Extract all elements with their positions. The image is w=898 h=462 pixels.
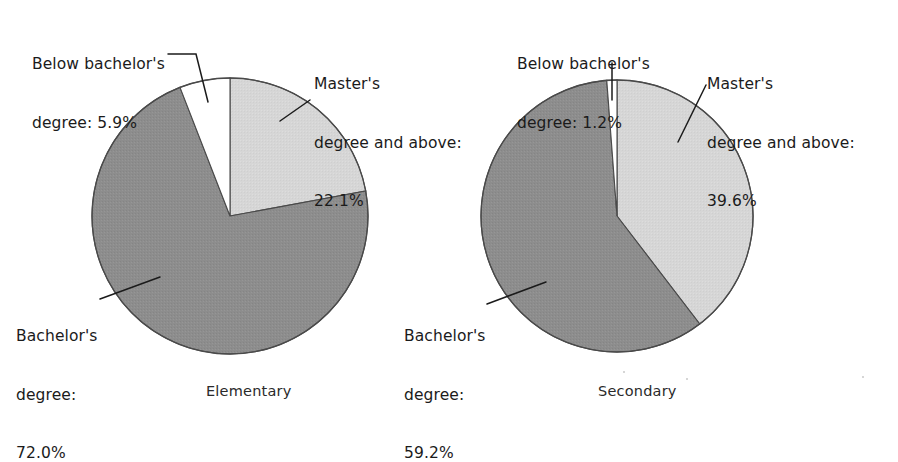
label-left-below-bachelors: Below bachelor's degree: 5.9% xyxy=(32,16,165,172)
label-right-below-bachelors: Below bachelor's degree: 1.2% xyxy=(517,16,650,172)
caption-elementary: Elementary xyxy=(206,383,291,399)
label-right-below-bachelors-line1: Below bachelor's xyxy=(517,55,650,75)
label-right-bachelors: Bachelor's degree: 59.2% xyxy=(404,288,486,462)
label-left-below-bachelors-line1: Below bachelor's xyxy=(32,55,165,75)
label-right-masters-line3: 39.6% xyxy=(707,192,855,212)
label-left-bachelors-line1: Bachelor's xyxy=(16,327,98,347)
label-left-masters: Master's degree and above: 22.1% xyxy=(314,36,462,251)
caption-secondary: Secondary xyxy=(598,383,677,399)
label-right-masters-line1: Master's xyxy=(707,75,855,95)
label-left-bachelors-line3: 72.0% xyxy=(16,444,98,462)
label-left-masters-line3: 22.1% xyxy=(314,192,462,212)
scan-speck xyxy=(862,376,864,378)
label-left-masters-line1: Master's xyxy=(314,75,462,95)
label-right-masters-line2: degree and above: xyxy=(707,134,855,154)
label-left-masters-line2: degree and above: xyxy=(314,134,462,154)
label-right-below-bachelors-line2: degree: 1.2% xyxy=(517,114,650,134)
scan-speck xyxy=(686,378,688,380)
label-right-masters: Master's degree and above: 39.6% xyxy=(707,36,855,251)
label-right-bachelors-line1: Bachelor's xyxy=(404,327,486,347)
label-right-bachelors-line2: degree: xyxy=(404,386,486,406)
scan-speck xyxy=(623,371,625,373)
label-left-below-bachelors-line2: degree: 5.9% xyxy=(32,114,165,134)
label-right-bachelors-line3: 59.2% xyxy=(404,444,486,462)
label-left-bachelors: Bachelor's degree: 72.0% xyxy=(16,288,98,462)
label-left-bachelors-line2: degree: xyxy=(16,386,98,406)
